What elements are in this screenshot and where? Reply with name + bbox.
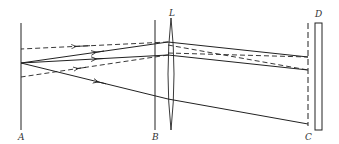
ray-solid-upper-right	[168, 42, 308, 57]
arrow-solid-bottom	[96, 81, 106, 83]
label-l: L	[168, 8, 175, 18]
ray-solid-middle-right	[168, 55, 308, 70]
label-b: B	[151, 132, 159, 142]
arrow-upper-dashed	[74, 46, 90, 47]
label-d: D	[314, 9, 322, 19]
lens-l	[168, 18, 174, 130]
ray-lower-dashed-left	[21, 55, 168, 77]
ray-solid-bottom-right	[168, 99, 308, 124]
ray-solid-bottom-left	[21, 63, 168, 99]
arrow-solid-middle	[94, 59, 104, 60]
optics-diagram: A B L C D	[0, 0, 339, 144]
label-a: A	[17, 132, 25, 142]
arrow-lower-dashed	[76, 67, 86, 69]
mirror-d	[315, 23, 322, 130]
label-c: C	[305, 132, 312, 142]
